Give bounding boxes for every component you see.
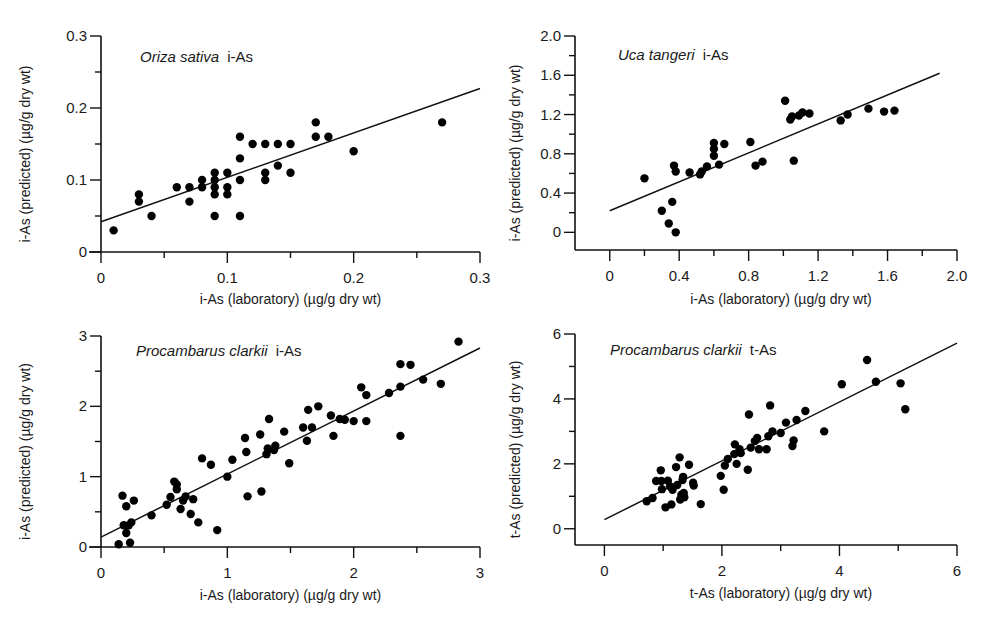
data-point	[454, 337, 462, 345]
data-point	[274, 161, 282, 169]
x-axis-title: i-As (laboratory) (µg/g dry wt)	[690, 291, 872, 307]
data-point	[176, 505, 184, 513]
y-tick-label: 2.0	[540, 27, 561, 44]
data-point	[299, 423, 307, 431]
data-point	[211, 212, 219, 220]
data-point	[304, 406, 312, 414]
data-point	[228, 456, 236, 464]
data-point	[781, 97, 789, 105]
data-point	[173, 183, 181, 191]
data-point	[667, 500, 675, 508]
data-point	[640, 174, 648, 182]
x-tick-label: 0.4	[669, 267, 690, 284]
x-tick-label: 1.2	[808, 267, 829, 284]
data-point	[223, 190, 231, 198]
x-tick-label: 2	[718, 562, 726, 579]
y-tick-label: 0.8	[540, 145, 561, 162]
data-point	[147, 511, 155, 519]
data-point	[362, 417, 370, 425]
data-point	[820, 427, 828, 435]
data-point	[223, 472, 231, 480]
species-name: Oriza sativa	[140, 48, 219, 65]
data-point	[746, 138, 754, 146]
data-point	[737, 449, 745, 457]
data-point	[872, 378, 880, 386]
x-axis-title: i-As (laboratory) (µg/g dry wt)	[200, 587, 382, 603]
data-point	[665, 219, 673, 227]
data-point	[768, 427, 776, 435]
x-tick-label: 4	[835, 562, 843, 579]
y-tick-label: 0.2	[66, 99, 87, 116]
x-tick-label: 6	[953, 562, 961, 579]
x-tick-label: 0	[600, 562, 608, 579]
data-point	[166, 493, 174, 501]
data-point	[274, 140, 282, 148]
data-point	[312, 133, 320, 141]
x-tick-label: 3	[476, 564, 484, 581]
data-point	[801, 407, 809, 415]
data-point	[668, 198, 676, 206]
data-point	[162, 501, 170, 509]
data-point	[758, 157, 766, 165]
y-axis-title: i-As (predicted) (µg/g dry wt)	[17, 66, 33, 243]
data-point	[362, 391, 370, 399]
species-name: Procambarus clarkii	[136, 342, 268, 359]
data-point	[327, 411, 335, 419]
data-point	[396, 382, 404, 390]
data-point	[243, 492, 251, 500]
x-tick-label: 0.1	[217, 269, 238, 286]
data-point	[285, 459, 293, 467]
data-point	[672, 463, 680, 471]
data-point	[792, 416, 800, 424]
data-point	[836, 116, 844, 124]
y-tick-label: 0	[553, 520, 561, 537]
regression-line	[101, 89, 480, 222]
data-point	[329, 432, 337, 440]
x-tick-label: 0.8	[738, 267, 759, 284]
y-tick-label: 6	[553, 325, 561, 342]
data-point	[189, 495, 197, 503]
y-tick-label: 0	[553, 223, 561, 240]
x-tick-label: 0.2	[343, 269, 364, 286]
data-point	[766, 401, 774, 409]
x-tick-label: 0.3	[470, 269, 491, 286]
data-point	[303, 437, 311, 445]
data-point	[719, 486, 727, 494]
y-tick-label: 0	[79, 538, 87, 555]
data-point	[324, 133, 332, 141]
data-point	[396, 432, 404, 440]
data-point	[109, 226, 117, 234]
data-point	[672, 228, 680, 236]
data-point	[198, 454, 206, 462]
data-point	[782, 418, 790, 426]
y-tick-label: 0.4	[540, 184, 561, 201]
data-point	[744, 465, 752, 473]
data-point	[314, 402, 322, 410]
data-point	[745, 410, 753, 418]
data-point	[658, 485, 666, 493]
data-point	[710, 152, 718, 160]
data-point	[648, 494, 656, 502]
data-point	[715, 160, 723, 168]
data-point	[680, 493, 688, 501]
data-point	[679, 473, 687, 481]
data-point	[341, 415, 349, 423]
data-point	[118, 491, 126, 499]
y-tick-label: 3	[79, 327, 87, 344]
y-axis-title: i-As (predicted) (µg/g dry wt)	[17, 363, 33, 540]
data-point	[880, 107, 888, 115]
y-tick-label: 4	[553, 390, 561, 407]
data-point	[864, 104, 872, 112]
data-point	[720, 140, 728, 148]
data-point	[127, 518, 135, 526]
data-point	[213, 526, 221, 534]
x-tick-label: 0	[97, 564, 105, 581]
panel-title: Procambarus clarkiii-As	[136, 342, 302, 359]
data-point	[697, 500, 705, 508]
data-point	[257, 487, 265, 495]
data-point	[685, 461, 693, 469]
data-point	[732, 460, 740, 468]
x-tick-label: 1	[223, 564, 231, 581]
data-point	[130, 496, 138, 504]
x-tick-label: 0	[97, 269, 105, 286]
